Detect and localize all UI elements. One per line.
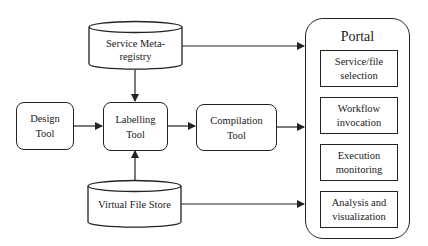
portal-item-line2: invocation xyxy=(337,116,381,130)
portal-item-execution-monitoring: Execution monitoring xyxy=(320,144,398,181)
portal-item-line2: selection xyxy=(335,69,383,83)
portal-item-line2: monitoring xyxy=(336,163,383,177)
portal-item-line1: Service/file xyxy=(335,55,383,69)
portal-item-workflow-invocation: Workflow invocation xyxy=(320,97,398,134)
design-tool-node: Design Tool xyxy=(16,102,74,150)
compilation-tool-line1: Compilation xyxy=(210,113,263,128)
portal-item-analysis-visualization: Analysis and visualization xyxy=(320,191,398,228)
service-meta-registry-line1: Service Meta- xyxy=(89,37,182,50)
compilation-tool-line2: Tool xyxy=(210,128,263,143)
labelling-tool-line2: Tool xyxy=(115,127,155,142)
service-meta-registry-line2: registry xyxy=(89,50,182,63)
labelling-tool-line1: Labelling xyxy=(115,112,155,127)
virtual-file-store-label: Virtual File Store xyxy=(88,198,181,211)
labelling-tool-node: Labelling Tool xyxy=(103,102,168,151)
portal-title: Portal xyxy=(306,29,409,45)
virtual-file-store-text: Virtual File Store xyxy=(88,198,181,211)
portal-item-line2: visualization xyxy=(332,210,387,224)
compilation-tool-node: Compilation Tool xyxy=(196,104,277,151)
design-tool-line2: Tool xyxy=(30,126,60,141)
portal-item-service-file-selection: Service/file selection xyxy=(320,50,398,87)
portal-item-line1: Execution xyxy=(336,149,383,163)
portal-item-line1: Workflow xyxy=(337,102,381,116)
design-tool-line1: Design xyxy=(30,111,60,126)
portal-item-line1: Analysis and xyxy=(332,196,387,210)
service-meta-registry-label: Service Meta- registry xyxy=(89,37,182,63)
